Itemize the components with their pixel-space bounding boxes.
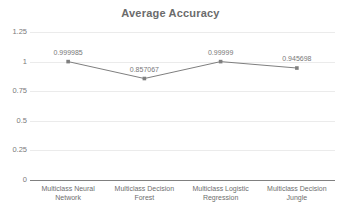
data-point-marker (295, 66, 299, 70)
x-tick-label-line: Jungle (259, 193, 335, 202)
data-point-marker (143, 77, 147, 81)
data-point-label: 0.945698 (282, 55, 311, 62)
x-tick-label-line: Forest (106, 193, 182, 202)
x-tick-label: Multiclass LogisticRegression (183, 184, 259, 203)
line-chart: Average Accuracy 00.250.50.7511.25 0.999… (0, 0, 341, 216)
y-tick-label: 0 (1, 176, 27, 184)
y-tick-label: 0.5 (1, 117, 27, 125)
data-point-label: 0.999985 (54, 49, 83, 56)
x-tick-label-line: Network (30, 193, 106, 202)
data-point-marker (66, 60, 70, 64)
y-tick-label: 0.75 (1, 87, 27, 95)
data-point-label: 0.857067 (130, 66, 159, 73)
data-point-marker (219, 60, 223, 64)
series-polyline (68, 62, 297, 79)
x-tick-label-line: Regression (183, 193, 259, 202)
x-tick-label-line: Multiclass Neural (30, 184, 106, 193)
y-tick-label: 1 (1, 58, 27, 66)
x-tick-label-line: Multiclass Decision (106, 184, 182, 193)
y-tick-label: 1.25 (1, 28, 27, 36)
x-tick-label-line: Multiclass Logistic (183, 184, 259, 193)
x-tick-label-line: Multiclass Decision (259, 184, 335, 193)
data-point-label: 0.99999 (208, 49, 233, 56)
chart-title: Average Accuracy (0, 7, 341, 19)
x-tick-label: Multiclass DecisionForest (106, 184, 182, 203)
x-axis-baseline (30, 180, 335, 181)
y-tick-label: 0.25 (1, 146, 27, 154)
x-tick-label: Multiclass DecisionJungle (259, 184, 335, 203)
x-tick-label: Multiclass NeuralNetwork (30, 184, 106, 203)
